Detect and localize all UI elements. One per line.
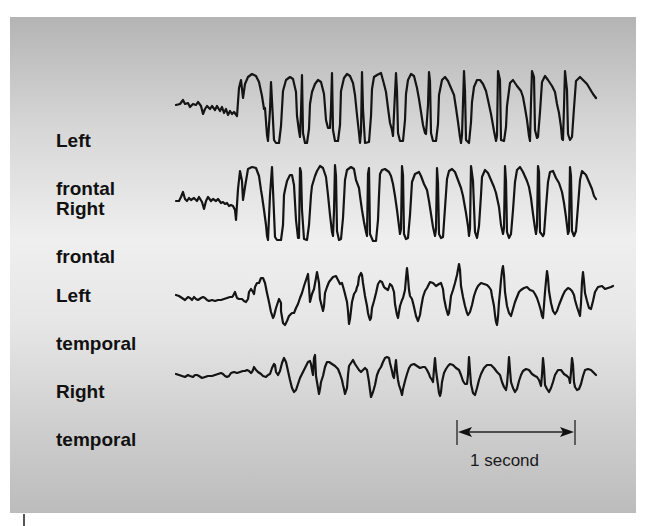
scale-bar <box>457 420 575 445</box>
scale-bar-label: 1 second <box>470 451 539 471</box>
trace-right-temporal <box>176 355 596 397</box>
trace-left-temporal <box>176 264 613 325</box>
corner-tick-mark <box>23 514 25 526</box>
trace-right-frontal <box>176 165 596 241</box>
eeg-traces <box>0 0 662 526</box>
trace-left-frontal <box>176 71 596 143</box>
